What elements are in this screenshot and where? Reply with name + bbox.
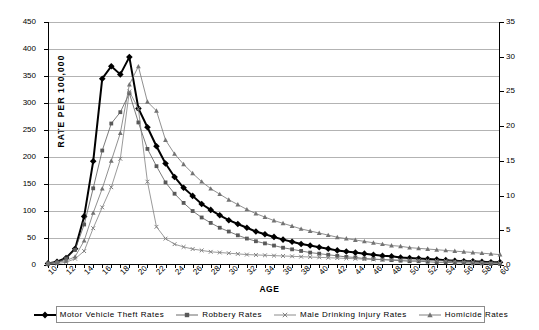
data-point-marker — [91, 186, 95, 190]
legend-item-0[interactable]: Motor Vehicle Theft Rates — [33, 310, 164, 320]
data-point-marker — [164, 237, 168, 241]
data-point-marker — [307, 242, 314, 249]
data-point-marker — [325, 246, 332, 253]
data-point-marker — [100, 149, 104, 153]
data-point-marker — [370, 251, 377, 258]
data-point-marker — [290, 247, 294, 251]
series-line — [48, 66, 500, 262]
data-point-marker — [73, 254, 78, 258]
data-point-marker — [209, 221, 213, 225]
data-point-marker — [109, 158, 114, 162]
data-point-marker — [217, 192, 222, 196]
legend-marker-diamond-icon — [33, 310, 57, 320]
data-point-marker — [254, 239, 258, 243]
legend-label: Male Drinking Injury Rates — [300, 310, 407, 319]
data-point-marker — [127, 82, 132, 86]
data-point-marker — [317, 252, 321, 256]
data-point-marker — [262, 231, 269, 238]
data-point-marker — [235, 202, 240, 206]
data-point-marker — [118, 110, 122, 114]
data-point-marker — [361, 250, 368, 257]
data-point-marker — [343, 248, 350, 255]
data-point-marker — [109, 122, 113, 126]
data-point-marker — [299, 249, 303, 253]
data-point-marker — [172, 151, 177, 155]
legend-marker-triangle-icon — [418, 310, 442, 320]
legend-label: Motor Vehicle Theft Rates — [60, 310, 164, 319]
data-point-marker — [280, 236, 287, 243]
data-point-marker — [263, 242, 267, 246]
data-point-marker — [235, 221, 242, 228]
legend-marker-square-icon — [175, 310, 199, 320]
data-point-marker — [100, 186, 105, 190]
data-point-marker — [91, 210, 96, 214]
data-point-marker — [73, 248, 77, 252]
data-point-marker — [281, 246, 285, 250]
data-point-marker — [316, 244, 323, 251]
chart-root: RATE PER 100,000 05010015020025030035040… — [0, 0, 539, 330]
data-point-marker — [173, 192, 177, 196]
data-point-marker — [226, 197, 231, 201]
data-point-marker — [100, 205, 104, 209]
data-point-marker — [164, 180, 168, 184]
data-point-marker — [82, 238, 87, 242]
legend-item-3[interactable]: Homicide Rates — [418, 310, 508, 320]
data-point-marker — [200, 216, 204, 220]
series-diamond — [45, 54, 504, 267]
data-point-marker — [145, 99, 150, 103]
data-point-marker — [271, 234, 278, 241]
data-point-marker — [163, 138, 168, 142]
data-point-marker — [136, 64, 141, 68]
data-point-marker — [254, 211, 259, 215]
data-point-marker — [244, 207, 249, 211]
data-point-marker — [298, 241, 305, 248]
data-point-marker — [82, 223, 86, 227]
data-point-marker — [289, 238, 296, 245]
data-point-marker — [118, 131, 123, 135]
data-point-marker — [244, 224, 251, 231]
data-point-marker — [352, 249, 359, 256]
legend-label: Robbery Rates — [202, 310, 262, 319]
data-point-marker — [245, 237, 249, 241]
legend-item-1[interactable]: Robbery Rates — [175, 310, 262, 320]
legend-marker-cross-icon — [273, 310, 297, 320]
data-point-marker — [182, 201, 186, 205]
series-layer — [0, 0, 539, 330]
data-point-marker — [218, 226, 222, 230]
legend-item-2[interactable]: Male Drinking Injury Rates — [273, 310, 407, 320]
data-point-marker — [208, 186, 213, 190]
data-point-marker — [253, 228, 260, 235]
data-point-marker — [308, 251, 312, 255]
x-axis-title: AGE — [0, 284, 539, 294]
data-point-marker — [191, 209, 195, 213]
chart-legend: Motor Vehicle Theft RatesRobbery RatesMa… — [56, 306, 485, 323]
data-point-marker — [144, 124, 151, 131]
data-point-marker — [334, 247, 341, 254]
data-point-marker — [236, 233, 240, 237]
data-point-marker — [272, 244, 276, 248]
data-point-marker — [90, 158, 97, 165]
data-point-marker — [82, 249, 86, 253]
data-point-marker — [146, 147, 150, 151]
data-point-marker — [155, 164, 159, 168]
legend-label: Homicide Rates — [445, 310, 508, 319]
series-line — [48, 57, 500, 263]
data-point-marker — [109, 185, 113, 189]
data-point-marker — [227, 230, 231, 234]
data-point-marker — [91, 226, 95, 230]
